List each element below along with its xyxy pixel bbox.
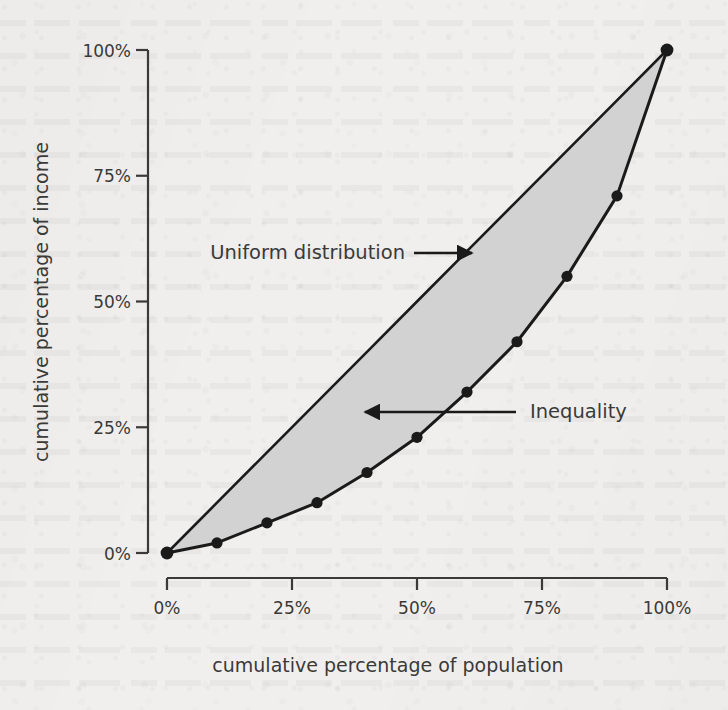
lorenz-data-point: [461, 386, 472, 397]
lorenz-data-point: [511, 336, 522, 347]
inequality-label: Inequality: [530, 400, 627, 423]
x-tick-label-100: 100%: [643, 598, 692, 618]
lorenz-data-point: [661, 44, 674, 57]
lorenz-data-point: [161, 547, 174, 560]
x-axis: [167, 578, 667, 590]
x-tick-label-75: 75%: [523, 598, 561, 618]
x-tick-label-25: 25%: [273, 598, 311, 618]
y-axis: [136, 50, 148, 553]
lorenz-data-point: [411, 432, 422, 443]
y-tick-label-25: 25%: [93, 418, 131, 438]
lorenz-data-point: [311, 497, 322, 508]
x-tick-label-50: 50%: [398, 598, 436, 618]
y-tick-label-50: 50%: [93, 292, 131, 312]
y-tick-label-100: 100%: [82, 41, 131, 61]
lorenz-data-point: [611, 190, 622, 201]
uniform-distribution-line: [167, 50, 667, 553]
lorenz-curve-chart: 100% 75% 50% 25% 0% 0% 25% 50% 75% 100% …: [0, 0, 728, 710]
x-tick-label-0: 0%: [154, 598, 181, 618]
y-axis-title: cumulative percentage of income: [30, 142, 52, 462]
x-axis-ticks: [167, 578, 667, 590]
lorenz-data-point: [361, 467, 372, 478]
lorenz-data-point: [211, 537, 222, 548]
uniform-distribution-label: Uniform distribution: [210, 241, 405, 264]
y-tick-label-75: 75%: [93, 166, 131, 186]
lorenz-data-point: [261, 517, 272, 528]
y-tick-label-0: 0%: [104, 544, 131, 564]
lorenz-data-point: [561, 271, 572, 282]
y-axis-ticks: [136, 50, 148, 553]
x-axis-title: cumulative percentage of population: [212, 654, 563, 676]
chart-canvas: 100% 75% 50% 25% 0% 0% 25% 50% 75% 100% …: [0, 0, 728, 710]
annotation-uniform-distribution: Uniform distribution: [210, 241, 472, 264]
